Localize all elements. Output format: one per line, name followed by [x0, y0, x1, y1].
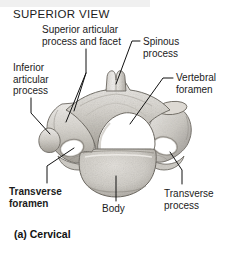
vertebral-body — [79, 149, 156, 197]
label-transverse-process: Transverse process — [164, 188, 214, 211]
label-inferior-articular-process: Inferior articular process — [13, 62, 49, 97]
figure-caption: (a) Cervical — [14, 228, 71, 240]
label-vertebral-foramen: Vertebral foramen — [176, 72, 216, 95]
figure-panel: SUPERIOR VIEW — [0, 0, 233, 253]
label-transverse-foramen: Transverse foramen — [9, 186, 62, 209]
vertebra-bone — [39, 71, 191, 197]
label-spinous-process: Spinous process — [143, 36, 179, 59]
spinous-process-bone — [106, 71, 126, 91]
label-superior-articular-process-and-facet: Superior articular process and facet — [42, 24, 121, 47]
label-body: Body — [102, 203, 125, 215]
